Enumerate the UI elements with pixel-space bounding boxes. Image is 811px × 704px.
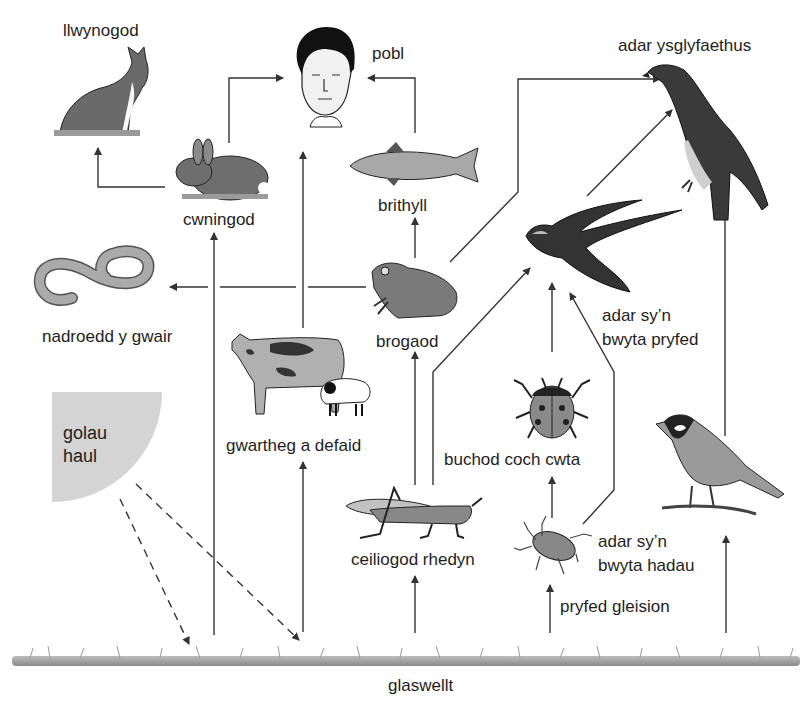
ladybirds-label: buchod coch cwta: [444, 450, 580, 470]
aphid-icon: [512, 510, 594, 576]
grass-strip-icon: [10, 642, 802, 672]
foxes-label: llwynogod: [63, 21, 139, 41]
aphids-label: pryfed gleision: [560, 597, 670, 617]
seed-birds-label-line1: adar sy’n: [598, 532, 667, 552]
frog-icon: [368, 258, 462, 322]
insect-birds-label-line1: adar sy’n: [602, 306, 671, 326]
sunlight-label-line1: golau: [63, 423, 107, 443]
cattle-sheep-label: gwartheg a defaid: [226, 436, 361, 456]
ladybird-icon: [508, 354, 598, 444]
grasshoppers-label: ceiliogod rhedyn: [351, 550, 475, 570]
arrow-sun-to-grass-1: [120, 499, 189, 644]
trout-label: brithyll: [378, 196, 427, 216]
rabbit-icon: [172, 138, 270, 202]
frogs-label: brogaod: [376, 332, 438, 352]
cow-sheep-icon: [226, 326, 384, 426]
people-label: pobl: [372, 44, 404, 64]
grass-snakes-label: nadroedd y gwair: [42, 327, 172, 347]
rabbits-label: cwningod: [183, 210, 255, 230]
grasshopper-icon: [340, 486, 484, 542]
fish-icon: [346, 140, 482, 188]
birds-of-prey-label: adar ysglyfaethus: [618, 36, 751, 56]
arrow-sun-to-grass-2: [136, 484, 299, 640]
swallow-icon: [522, 196, 684, 300]
seed-birds-label-line2: bwyta hadau: [598, 556, 694, 576]
arrow-trout-to-people: [368, 78, 415, 133]
insect-birds-label-line2: bwyta pryfed: [602, 330, 698, 350]
arrow-rabbits-to-foxes: [98, 148, 165, 187]
human-face-icon: [290, 27, 360, 139]
tit-bird-icon: [652, 410, 792, 526]
arrow-rabbits-to-people: [229, 78, 283, 143]
grass-label: glaswellt: [388, 676, 453, 696]
snake-icon: [28, 228, 158, 312]
fox-icon: [50, 42, 160, 140]
sunlight-label-line2: haul: [63, 446, 97, 466]
